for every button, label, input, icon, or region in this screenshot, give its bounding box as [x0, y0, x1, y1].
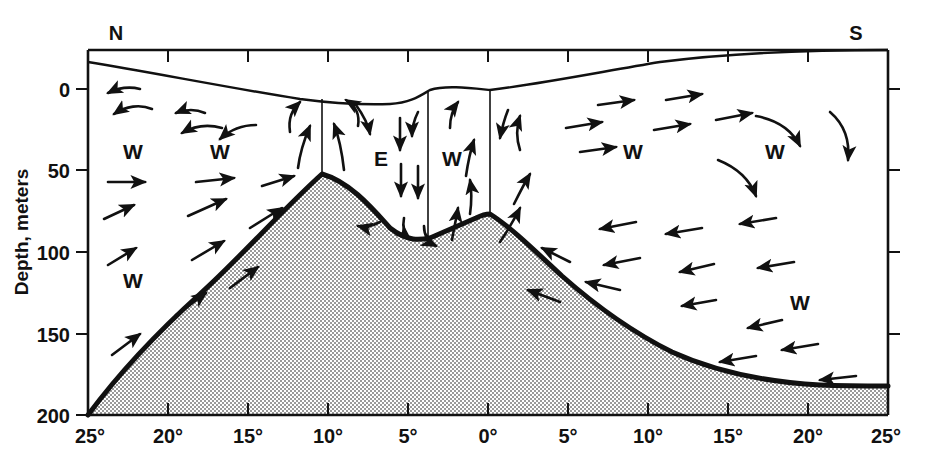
flow-label-w: W	[623, 140, 643, 163]
ocean-cross-section-figure: 0 50 100 150 200 Depth, meters 25° 20° 1…	[0, 0, 930, 469]
x-tick-label: 25°	[871, 425, 901, 447]
x-tick-label: 0°	[478, 425, 497, 447]
y-tick-label: 0	[59, 79, 70, 101]
y-axis-title: Depth, meters	[11, 169, 32, 296]
flow-label-w: W	[123, 140, 143, 163]
x-tick-label: 5°	[398, 425, 417, 447]
flow-label-w: W	[210, 140, 230, 163]
y-tick-label: 150	[37, 324, 70, 346]
figure-svg: 0 50 100 150 200 Depth, meters 25° 20° 1…	[0, 0, 930, 469]
flow-label-w: W	[765, 140, 785, 163]
flow-label-w: W	[442, 147, 462, 170]
y-tick-label: 200	[37, 405, 70, 427]
x-tick-label: 20°	[153, 425, 183, 447]
x-tick-label: 10°	[313, 425, 343, 447]
flow-label-e: E	[374, 147, 388, 170]
x-tick-label: 10°	[633, 425, 663, 447]
north-label: N	[109, 22, 123, 44]
flow-label-w: W	[790, 291, 810, 314]
x-tick-label: 5°	[558, 425, 577, 447]
x-tick-label: 15°	[713, 425, 743, 447]
x-tick-label: 15°	[233, 425, 263, 447]
x-tick-label: 20°	[793, 425, 823, 447]
arrow	[470, 180, 472, 214]
flow-label-w: W	[123, 269, 143, 292]
y-tick-label: 50	[48, 160, 70, 182]
x-tick-label: 25°	[75, 425, 105, 447]
south-label: S	[849, 22, 862, 44]
y-tick-label: 100	[37, 242, 70, 264]
